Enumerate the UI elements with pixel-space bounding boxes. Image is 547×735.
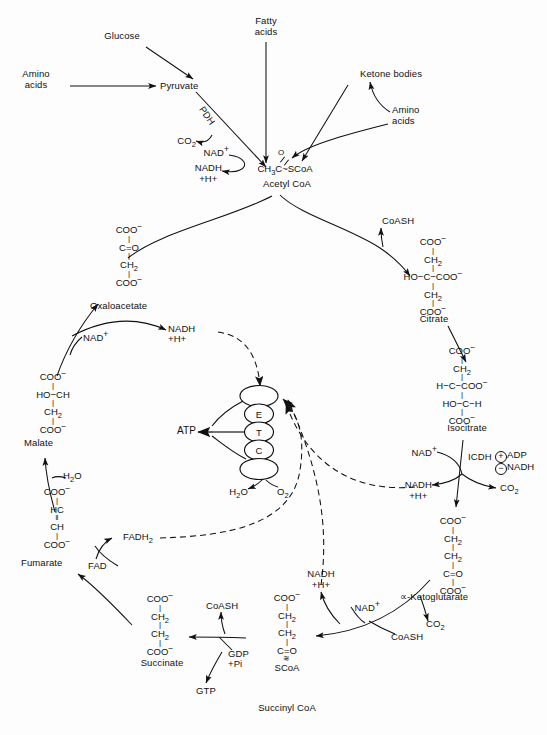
label-nad-kgdh: NAD+ (355, 603, 380, 614)
label-fatty-acids: Fatty acids (255, 16, 278, 37)
formula-succinate: COO−|CH2|CH2|COO− (147, 593, 174, 657)
input-arrows (70, 42, 390, 163)
dashed-nadh-mdh-to-etc (218, 332, 260, 386)
arrow-coash-scs (221, 612, 225, 634)
arrow-glucose-pyruvate (146, 47, 193, 79)
label-enzyme-icdh: ICDH (468, 452, 492, 463)
etc-terminal-reaction (248, 480, 278, 489)
label-co2-pdh: CO2 (177, 136, 196, 147)
formula-citrate: COO−|CH2|HO−C−COO−|CH2|COO− (404, 236, 463, 318)
label-h2o-fumarase: H2O (63, 471, 82, 482)
arrow-aminoacids-ketonebodies (370, 82, 390, 112)
label-nadh-mdh: NADH +H+ (168, 324, 195, 344)
formula-isocitrate: COO−|CH2|H−C−COO−|HO−C−H|COO− (436, 345, 487, 427)
curve-nad-mdh (70, 337, 82, 355)
curve-nad-nadh-pdh (229, 155, 245, 170)
label-co2-icdh: CO2 (500, 483, 519, 494)
label-fadh2: FADH2 (123, 532, 153, 543)
label-nad-mdh: NAD+ (83, 333, 108, 344)
label-coash-citrate: CoASH (382, 216, 414, 227)
label-coash-kgdh: CoASH (391, 632, 423, 643)
etc-node-1 (240, 386, 278, 407)
arrow-nadh-pdh (222, 170, 240, 172)
label-fumarate: Fumarate (21, 558, 62, 569)
curve-nad-icdh (437, 452, 462, 474)
dashed-nadh-icdh-to-etc (286, 404, 415, 488)
dashed-reducing-equivalents (160, 332, 415, 585)
formula-fumarate: COO−|HC‖CH|COO− (44, 486, 71, 550)
etc-label-c: C (256, 445, 263, 456)
label-o2-etc: O2 (277, 487, 289, 498)
label-amino-acids-right: Amino acids (392, 105, 419, 126)
succinate-to-fumarate (78, 538, 132, 625)
label-nadh-pdh: NADH +H+ (195, 163, 222, 184)
arrow-co2-release-pdh (196, 135, 212, 142)
formula-malate: COO−|HO−CH|CH2|COO− (36, 371, 70, 435)
atp-line-bottom (212, 436, 246, 459)
label-succinate: Succinate (141, 658, 184, 669)
formula-ketoglutarate: COO−|CH2|CH2|C=O|COO− (440, 515, 467, 597)
etc-label-e: E (256, 409, 262, 420)
arrow-succinate-fumarate (78, 574, 132, 625)
dashed-nadh-kgdh-to-etc (288, 400, 324, 585)
label-coash-scs: CoASH (206, 601, 238, 612)
formula-oxaloacetate: COO−|C=O|CH2|COO− (116, 224, 143, 288)
dashed-fadh2-to-etc (160, 399, 302, 538)
label-gdp-pi: GDP +Pi (228, 649, 249, 669)
label-nadh-icdh: NADH +H+ (405, 480, 432, 501)
etc-label-t: T (256, 427, 262, 438)
arc-acetylcoa-right-1 (280, 195, 380, 248)
label-glucose: Glucose (104, 31, 140, 42)
atp-output-lines (198, 401, 246, 459)
formula-succinyl-coa: COO−|CH2|CH2|C=O≋SCoA (274, 592, 301, 674)
label-malate: Malate (24, 438, 53, 449)
label-icdh-inhibitor: −NADH (495, 462, 534, 475)
label-amino-acids-left: Amino acids (22, 69, 49, 90)
arrow-succinylcoa-succinate (189, 637, 246, 638)
label-isocitrate: Isocitrate (447, 423, 487, 434)
label-ketone-bodies: Ketone bodies (360, 69, 422, 80)
diagram-canvas: Glucose Amino acids Fatty acids Ketone b… (0, 0, 547, 735)
minus-circle-icon: − (495, 463, 507, 475)
label-succinyl-coa: Succinyl CoA (258, 703, 316, 714)
label-nad-pdh: NAD+ (204, 148, 229, 159)
label-nadh-kgdh: NADH +H+ (307, 569, 334, 590)
label-ketoglutarate: ∝-Ketoglutarate (400, 592, 468, 603)
arrow-h2o-produced (248, 480, 262, 489)
arrow-nadh-kgdh (321, 592, 340, 624)
label-gtp: GTP (196, 686, 216, 697)
label-acetyl-coa: Acetyl CoA (263, 179, 311, 190)
arrow-coash-release-citrate (381, 228, 383, 247)
arc-acetylcoa-left (128, 196, 272, 258)
atp-line-top (212, 401, 243, 426)
arrow-nadh-icdh (432, 474, 462, 485)
label-co2-kgdh: CO2 (426, 619, 445, 630)
label-atp: ATP (177, 426, 196, 437)
label-oxaloacetate: Oxaloacetate (90, 301, 147, 312)
arrow-gtp-out (206, 652, 222, 683)
etc-node-5 (240, 459, 278, 480)
label-h2o-etc: H2O (229, 487, 248, 498)
arrow-co2-icdh (462, 474, 496, 488)
arrow-ketonebodies-acetylcoa (302, 85, 348, 161)
label-fad: FAD (88, 561, 107, 572)
acetylcoa-to-citrate (128, 195, 410, 276)
label-pyruvate: Pyruvate (160, 81, 198, 92)
label-nad-icdh: NAD+ (412, 448, 437, 459)
malate-to-oxaloacetate (57, 304, 166, 376)
label-citrate: Citrate (420, 314, 449, 325)
